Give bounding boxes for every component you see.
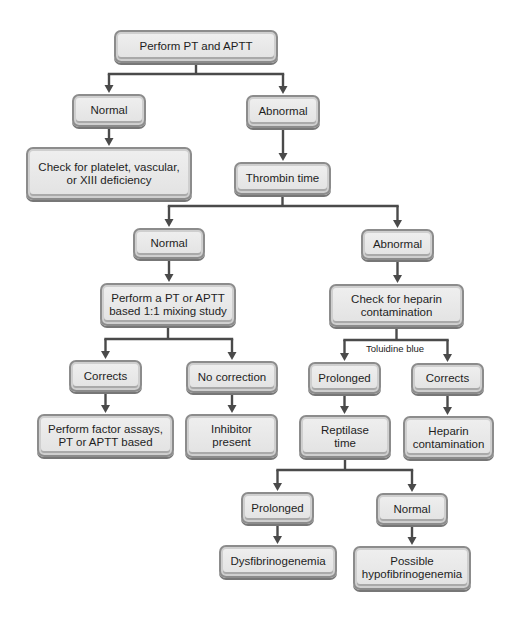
arrowhead-icon bbox=[228, 352, 237, 360]
node-normal-2: Normal bbox=[133, 228, 205, 259]
arrowhead-icon bbox=[393, 220, 402, 228]
arrowhead-icon bbox=[101, 405, 110, 413]
arrowhead-icon bbox=[279, 86, 288, 94]
node-abnormal-1: Abnormal bbox=[246, 95, 320, 128]
arrowhead-icon bbox=[408, 537, 417, 545]
node-corrects-2: Corrects bbox=[411, 363, 484, 394]
node-normal-3: Normal bbox=[376, 493, 448, 525]
node-corrects-1: Corrects bbox=[69, 360, 142, 392]
node-prolonged-1: Prolonged bbox=[308, 362, 381, 394]
node-abnormal-2: Abnormal bbox=[361, 229, 434, 260]
arrowhead-icon bbox=[228, 405, 237, 413]
arrowhead-icon bbox=[408, 484, 417, 492]
node-dysfibrinogenemia: Dysfibrinogenemia bbox=[219, 545, 337, 578]
arrowhead-icon bbox=[273, 536, 282, 544]
node-mixing-study: Perform a PT or APTT based 1:1 mixing st… bbox=[100, 283, 236, 326]
node-inhibitor-present: Inhibitor present bbox=[185, 414, 278, 458]
node-normal-1: Normal bbox=[72, 94, 146, 127]
arrowhead-icon bbox=[443, 354, 452, 362]
arrowhead-icon bbox=[340, 353, 349, 361]
node-check-platelet: Check for platelet, vascular, or XIII de… bbox=[26, 147, 192, 200]
arrowhead-icon bbox=[340, 406, 349, 414]
arrowhead-icon bbox=[105, 85, 114, 93]
arrowhead-icon bbox=[165, 274, 174, 282]
arrowhead-icon bbox=[105, 138, 114, 146]
flowchart-canvas: Perform PT and APTT Normal Abnormal Chec… bbox=[0, 0, 528, 620]
arrowhead-icon bbox=[273, 483, 282, 491]
node-factor-assays: Perform factor assays, PT or APTT based bbox=[37, 414, 174, 457]
node-no-correction: No correction bbox=[186, 361, 278, 393]
node-thrombin-time: Thrombin time bbox=[234, 162, 331, 195]
arrowhead-icon bbox=[279, 153, 288, 161]
node-perform-pt-aptt: Perform PT and APTT bbox=[114, 30, 278, 63]
arrowhead-icon bbox=[393, 275, 402, 283]
node-heparin-contamination: Heparin contamination bbox=[403, 416, 494, 459]
node-possible-hypofibrinogenemia: Possible hypofibrinogenemia bbox=[353, 546, 471, 590]
arrowhead-icon bbox=[443, 407, 452, 415]
arrowhead-icon bbox=[101, 351, 110, 359]
node-reptilase-time: Reptilase time bbox=[299, 415, 391, 458]
node-check-heparin: Check for heparin contamination bbox=[329, 284, 464, 327]
edge-label-toluidine-blue: Toluidine blue bbox=[366, 343, 424, 354]
node-prolonged-2: Prolonged bbox=[241, 492, 314, 524]
arrowhead-icon bbox=[165, 219, 174, 227]
